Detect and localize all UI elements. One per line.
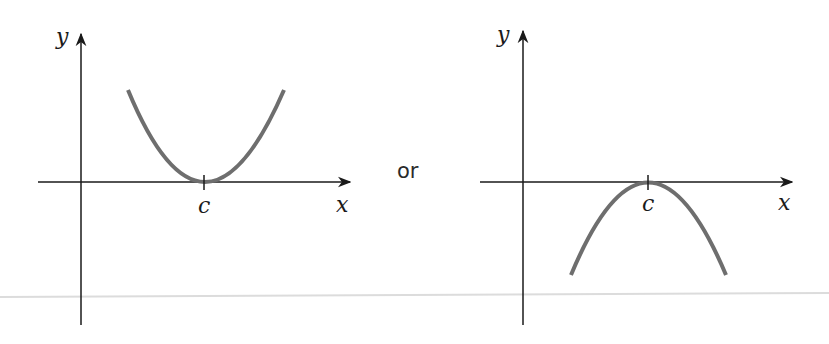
c-tick-label: c [642, 191, 654, 216]
x-axis-label: x [336, 192, 349, 217]
graph-upward-parabola: y x c [38, 24, 350, 325]
or-connector: or [397, 159, 419, 183]
upward-parabola-curve [128, 90, 284, 182]
separator-line [0, 293, 829, 297]
c-tick-label: c [198, 193, 210, 218]
y-axis-label: y [55, 24, 69, 49]
graph-downward-parabola: y x c [480, 22, 792, 325]
diagram-canvas: y x c or y x c [0, 0, 829, 344]
x-axis-label: x [778, 190, 791, 215]
y-axis-label: y [496, 22, 510, 47]
